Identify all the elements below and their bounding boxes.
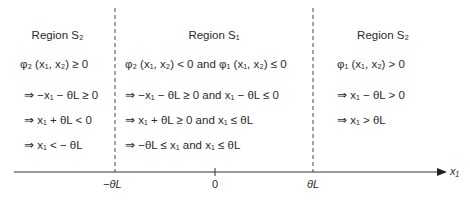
region-s2-right: Region S₂ φ₁ (x₁, x₂) > 0 ⇒ x₁ − θL > 0 … bbox=[313, 0, 453, 165]
region-title: Region S₁ bbox=[115, 29, 313, 41]
region-diagram: Region S₂ φ₂ (x₁, x₂) ≥ 0 ⇒ −x₁ − θL ≥ 0… bbox=[0, 0, 470, 200]
condition-row: ⇒ x₁ + θL < 0 bbox=[24, 113, 92, 127]
region-title: Region S₂ bbox=[313, 29, 453, 41]
region-title: Region S₂ bbox=[0, 29, 115, 41]
tick-label-neg-theta-l: −θL bbox=[103, 178, 122, 190]
tick-label-theta-l: θL bbox=[307, 178, 319, 190]
condition-row: ⇒ x₁ + θL ≥ 0 and x₁ ≤ θL bbox=[125, 113, 253, 127]
x-axis-arrowhead bbox=[437, 168, 447, 176]
condition-row: ⇒ −x₁ − θL ≥ 0 and x₁ − θL ≤ 0 bbox=[125, 88, 279, 102]
x-axis-variable-label: x₁ bbox=[450, 165, 459, 177]
condition-row: ⇒ −x₁ − θL ≥ 0 bbox=[24, 88, 98, 102]
condition-row: φ₂ (x₁, x₂) ≥ 0 bbox=[20, 58, 88, 70]
condition-row: ⇒ x₁ < − θL bbox=[24, 138, 83, 152]
region-s1-center: Region S₁ φ₂ (x₁, x₂) < 0 and φ₁ (x₁, x₂… bbox=[115, 0, 313, 165]
condition-row: φ₁ (x₁, x₂) > 0 bbox=[337, 58, 405, 70]
tick-label-zero: 0 bbox=[212, 178, 218, 190]
region-s2-left: Region S₂ φ₂ (x₁, x₂) ≥ 0 ⇒ −x₁ − θL ≥ 0… bbox=[0, 0, 115, 165]
condition-row: ⇒ x₁ − θL > 0 bbox=[337, 88, 405, 102]
condition-row: ⇒ −θL ≤ x₁ and x₁ ≤ θL bbox=[125, 138, 240, 152]
condition-row: φ₂ (x₁, x₂) < 0 and φ₁ (x₁, x₂) ≤ 0 bbox=[125, 58, 287, 70]
condition-row: ⇒ x₁ > θL bbox=[337, 113, 386, 127]
